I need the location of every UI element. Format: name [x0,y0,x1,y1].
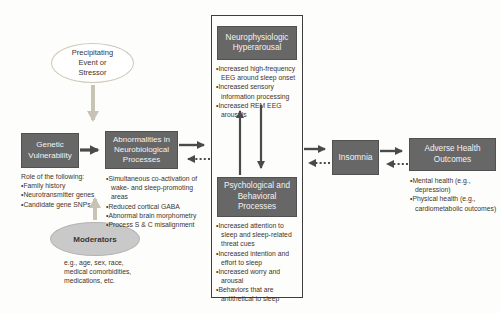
abnormalities-note: Simultaneous co-activation of wake- and … [106,174,203,229]
adverse-health-outcomes-box: Adverse Health Outcomes [409,138,496,171]
genetic-bullet-2: Neurotransmitter genes [21,190,109,199]
precipitating-event-ellipse: Precipitating Event or Stressor [51,43,134,83]
genetic-vulnerability-label: Genetic Vulnerability [24,140,76,160]
abnormalities-box: Abnormalities in Neurobiological Process… [105,131,178,169]
genetic-bullet-1: Family history [21,181,109,190]
precipitating-event-label: Precipitating Event or Stressor [67,48,119,77]
moderators-label: Moderators [73,235,117,244]
psychological-behavioral-label: Psychological and Behavioral Processes [220,181,294,213]
neurophysiologic-bullet-1: Increased high-frequency EEG around slee… [216,64,299,82]
insomnia-label: Insomnia [339,152,373,163]
adverse-health-outcomes-label: Adverse Health Outcomes [412,144,493,165]
psychological-behavioral-box: Psychological and Behavioral Processes [217,177,297,217]
psychological-note: Increased attention to sleep and sleep-r… [216,221,301,304]
insomnia-model-diagram: Precipitating Event or Stressor Moderato… [0,0,501,313]
abnormalities-bullet-2: Reduced cortical GABA [106,202,203,211]
genetic-bullet-3: Candidate gene SNPs [21,200,109,209]
psychological-bullet-3: Increased worry and arousal [216,267,301,285]
neurophysiologic-note: Increased high-frequency EEG around slee… [216,64,299,119]
adverse-note: Mental health (e.g., depression) Physica… [410,176,498,213]
neurophysiologic-hyperarousal-box: Neurophysiologic Hyperarousal [217,26,297,60]
neurophysiologic-bullet-3: Increased REM EEG arousals [216,101,299,119]
psychological-bullet-4: Behaviors that are antithetical to sleep [216,285,301,303]
insomnia-box: Insomnia [332,140,379,175]
abnormalities-bullet-4: Process S & C misalignment [106,220,203,229]
genetic-vulnerability-box: Genetic Vulnerability [21,133,79,168]
moderators-note-text: e.g., age, sex, race, medical comorbidit… [64,258,142,286]
psychological-bullet-1: Increased attention to sleep and sleep-r… [216,221,301,249]
abnormalities-bullet-1: Simultaneous co-activation of wake- and … [106,174,203,202]
neurophysiologic-bullet-2: Increased sensory information processing [216,82,299,100]
adverse-bullet-1: Mental health (e.g., depression) [410,176,498,194]
neurophysiologic-hyperarousal-label: Neurophysiologic Hyperarousal [220,33,294,54]
psychological-bullet-2: Increased intention and effort to sleep [216,249,301,267]
moderators-note: e.g., age, sex, race, medical comorbidit… [64,258,142,286]
genetic-note-heading: Role of the following: [21,172,109,181]
abnormalities-bullet-3: Abnormal brain morphometry [106,211,203,220]
adverse-bullet-2: Physical health (e.g., cardiometabolic o… [410,194,498,212]
genetic-note: Role of the following: Family history Ne… [21,172,109,209]
abnormalities-label: Abnormalities in Neurobiological Process… [108,135,175,166]
